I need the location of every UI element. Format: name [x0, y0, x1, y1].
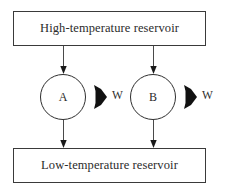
heat-output-arrow-engine-b: [149, 120, 158, 149]
engine-b-circle: B: [130, 74, 176, 120]
heat-input-arrow-engine-a: [59, 46, 68, 75]
engine-a-circle: A: [40, 74, 86, 120]
work-label-engine-b: W: [202, 89, 213, 101]
engine-a-label: A: [59, 90, 68, 105]
high-temperature-reservoir-label: High-temperature reservoir: [40, 21, 179, 36]
work-output-arrow-engine-b: [183, 84, 198, 110]
work-label-engine-a: W: [112, 89, 123, 101]
low-temperature-reservoir-box: Low-temperature reservoir: [13, 148, 206, 183]
work-output-arrow-engine-a: [93, 84, 108, 110]
engine-b-label: B: [149, 90, 157, 105]
high-temperature-reservoir-box: High-temperature reservoir: [13, 11, 206, 46]
heat-engine-diagram: High-temperature reservoir A B W W: [0, 0, 225, 192]
low-temperature-reservoir-label: Low-temperature reservoir: [41, 158, 178, 173]
heat-output-arrow-engine-a: [59, 120, 68, 149]
heat-input-arrow-engine-b: [149, 46, 158, 75]
